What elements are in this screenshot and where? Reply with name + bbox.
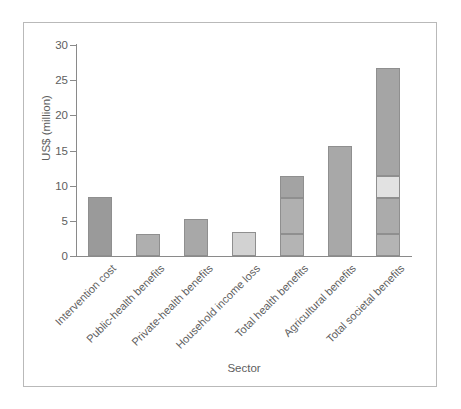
bar-segment xyxy=(376,176,400,198)
y-axis-tick-label: 0 xyxy=(38,256,68,257)
bar-segment xyxy=(280,176,304,198)
bar-segment xyxy=(232,232,256,256)
y-axis-tick-label: 30 xyxy=(38,45,68,46)
x-axis-category-label-text: Household income loss xyxy=(174,262,263,351)
y-axis-tick-label-text: 0 xyxy=(62,250,68,262)
y-axis-tick xyxy=(70,151,76,152)
bar-segment xyxy=(376,68,400,176)
y-axis-tick-label-text: 10 xyxy=(55,180,68,192)
bar-segment xyxy=(376,234,400,256)
bar-segment xyxy=(328,146,352,256)
y-axis-tick-label-text: 20 xyxy=(55,109,68,121)
x-axis-category-label-text: Private-health benefits xyxy=(129,262,215,348)
y-axis-tick xyxy=(70,221,76,222)
y-axis-tick-label-text: 25 xyxy=(55,74,68,86)
bar xyxy=(136,234,160,256)
bar-segment xyxy=(184,219,208,256)
y-axis-tick-label-text: 15 xyxy=(55,145,68,157)
y-axis-title: US$ (million) xyxy=(40,68,52,188)
bar xyxy=(232,232,256,256)
bar xyxy=(184,219,208,256)
y-axis-tick xyxy=(70,186,76,187)
bar-segment xyxy=(376,198,400,235)
y-axis-tick-label: 5 xyxy=(38,221,68,222)
y-axis-line xyxy=(76,44,77,257)
x-axis-title: Sector xyxy=(76,362,412,374)
bar xyxy=(376,68,400,256)
y-axis-tick-label-text: 30 xyxy=(55,39,68,51)
bar xyxy=(280,176,304,256)
y-axis-tick xyxy=(70,80,76,81)
y-axis-tick xyxy=(70,45,76,46)
bar-segment xyxy=(280,198,304,235)
bar xyxy=(88,197,112,256)
bar-segment xyxy=(280,234,304,256)
y-axis-tick-label-text: 5 xyxy=(62,215,68,227)
y-axis-tick xyxy=(70,115,76,116)
x-axis-line xyxy=(76,256,412,257)
bar-segment xyxy=(136,234,160,256)
bar-segment xyxy=(88,197,112,256)
bar xyxy=(328,146,352,256)
y-axis-tick xyxy=(70,256,76,257)
chart-plot-area: 051015202530 US$ (million) Intervention … xyxy=(0,0,461,409)
